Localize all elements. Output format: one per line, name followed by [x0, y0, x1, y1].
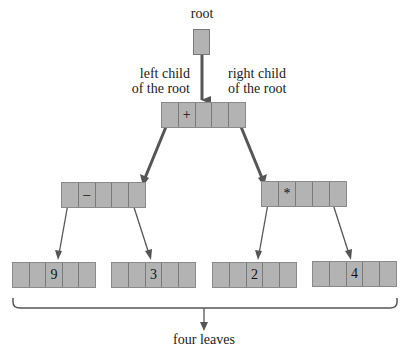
cell: [63, 263, 80, 287]
cell: [262, 182, 279, 206]
cell: [179, 263, 195, 287]
cell: [380, 262, 396, 286]
right-child-label-line2: of the root: [228, 81, 318, 96]
cell: [296, 182, 313, 206]
cell: [230, 263, 247, 287]
cell: [112, 263, 129, 287]
cell: [129, 263, 146, 287]
cell-operator: +: [179, 103, 196, 127]
cell: [330, 262, 347, 286]
cell: [313, 262, 330, 286]
leaf-node-3: 3: [111, 262, 196, 288]
cell: [196, 103, 213, 127]
cell: [363, 262, 380, 286]
left-child-node: –: [61, 182, 146, 208]
cell: [263, 263, 280, 287]
cell: [13, 263, 30, 287]
cell: [129, 183, 145, 207]
root-label: root: [185, 6, 219, 21]
cell: [62, 183, 79, 207]
cell: [79, 263, 95, 287]
cell: [280, 263, 296, 287]
cell: [30, 263, 47, 287]
root-pointer-box: [193, 29, 210, 55]
left-child-label-line1: left child: [110, 66, 190, 81]
leaves-brace: [13, 298, 397, 308]
leaf-node-4: 4: [312, 261, 397, 287]
cell-value: 3: [146, 263, 163, 287]
cell: [213, 263, 230, 287]
cell-operator: *: [279, 182, 296, 206]
cell: [330, 182, 346, 206]
cell-value: 2: [247, 263, 264, 287]
cell: [212, 103, 229, 127]
left-child-label-line2: of the root: [100, 81, 190, 96]
right-child-label-line1: right child: [228, 66, 318, 81]
cell: [313, 182, 330, 206]
cell: [162, 263, 179, 287]
cell: [112, 183, 129, 207]
cell-value: 4: [347, 262, 364, 286]
leaf-node-9: 9: [12, 262, 96, 288]
cell: [96, 183, 113, 207]
right-child-node: *: [261, 181, 347, 207]
cell: [162, 103, 179, 127]
leaf-node-2: 2: [212, 262, 297, 288]
four-leaves-label: four leaves: [164, 332, 244, 347]
root-node: +: [161, 102, 246, 128]
cell-value: 9: [46, 263, 63, 287]
cell: [229, 103, 245, 127]
cell-operator: –: [79, 183, 96, 207]
